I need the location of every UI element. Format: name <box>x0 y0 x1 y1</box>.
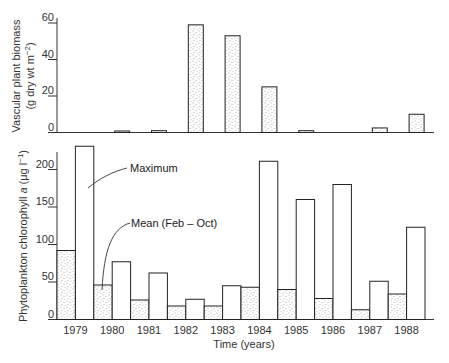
bar-mean-1979 <box>57 251 75 320</box>
x-tick-label-1983: 1983 <box>210 324 234 336</box>
bottom-y-tick-label: 150 <box>36 195 54 207</box>
x-tick-label-1987: 1987 <box>358 324 382 336</box>
top-y-tick-label: 40 <box>42 48 54 60</box>
top-bars <box>115 25 424 133</box>
bottom-y-tick-label: 0 <box>48 308 54 320</box>
bottom-panel-chlorophyll: 050100150200 197919801981198219831984198… <box>16 146 434 350</box>
top-bar-1984 <box>262 87 277 133</box>
top-bar-1987 <box>372 128 387 133</box>
bar-max-1979 <box>75 146 93 319</box>
bottom-y-tick-label: 200 <box>36 158 54 170</box>
bar-mean-1984 <box>241 287 259 319</box>
x-tick-label-1988: 1988 <box>394 324 418 336</box>
bar-mean-1985 <box>278 290 296 320</box>
top-bar-1981 <box>152 131 167 133</box>
bar-mean-1988 <box>388 294 406 320</box>
bar-mean-1981 <box>131 300 149 320</box>
bar-max-1987 <box>370 281 388 319</box>
top-bar-1988 <box>409 114 424 132</box>
bottom-bars <box>57 146 425 319</box>
top-y-tick-label: 20 <box>42 84 54 96</box>
bottom-y-ticks: 050100150200 <box>36 158 57 320</box>
x-axis-title: Time (years) <box>213 338 274 350</box>
top-panel-vascular-biomass: 0204060 Vascular plant biomass (g dry wt… <box>10 11 434 133</box>
bar-max-1980 <box>112 262 130 320</box>
top-bar-1985 <box>299 131 314 133</box>
x-tick-label-1979: 1979 <box>63 324 87 336</box>
bar-max-1988 <box>407 227 425 319</box>
bar-mean-1987 <box>351 310 369 320</box>
top-bar-1982 <box>188 25 203 133</box>
top-y-ticks: 0204060 <box>42 11 57 133</box>
annotation-mean: Mean (Feb – Oct) <box>131 217 217 229</box>
chart-svg: 0204060 Vascular plant biomass (g dry wt… <box>0 0 449 363</box>
top-y-tick-label: 60 <box>42 11 54 23</box>
x-tick-labels: 1979198019811982198319841985198619871988 <box>63 324 419 336</box>
bar-mean-1983 <box>204 306 222 320</box>
x-tick-label-1984: 1984 <box>247 324 271 336</box>
bar-mean-1986 <box>315 299 333 320</box>
top-y-axis-units: (g dry wt m−2) <box>23 42 36 109</box>
bar-max-1985 <box>296 200 314 320</box>
bar-max-1983 <box>223 286 241 320</box>
bottom-y-tick-label: 50 <box>42 270 54 282</box>
bar-max-1984 <box>259 161 277 319</box>
x-tick-label-1980: 1980 <box>100 324 124 336</box>
bar-mean-1982 <box>167 306 185 320</box>
bar-max-1981 <box>149 273 167 320</box>
bar-max-1986 <box>333 185 351 320</box>
top-y-axis-title: Vascular plant biomass <box>10 19 22 132</box>
bottom-y-axis-title: Phytoplankton chlorophyll a (μg l−1) <box>16 150 29 322</box>
top-y-tick-label: 0 <box>48 121 54 133</box>
chart-figure: 0204060 Vascular plant biomass (g dry wt… <box>0 0 449 363</box>
bar-max-1982 <box>186 299 204 319</box>
x-tick-label-1986: 1986 <box>321 324 345 336</box>
x-tick-label-1981: 1981 <box>137 324 161 336</box>
x-tick-label-1985: 1985 <box>284 324 308 336</box>
bottom-y-tick-label: 100 <box>36 233 54 245</box>
annotation-maximum: Maximum <box>130 162 178 174</box>
bar-mean-1980 <box>94 285 112 320</box>
top-bar-1980 <box>115 131 130 133</box>
top-bar-1983 <box>225 36 240 133</box>
x-tick-label-1982: 1982 <box>174 324 198 336</box>
